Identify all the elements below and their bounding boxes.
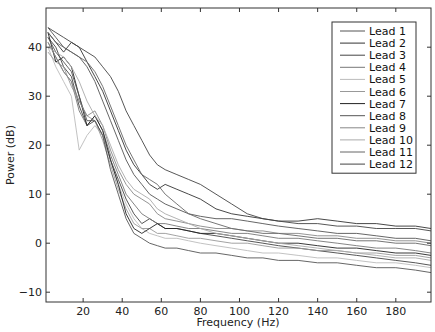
legend-label: Lead 1 [369, 25, 406, 38]
legend-label: Lead 6 [369, 86, 406, 99]
legend-label: Lead 12 [369, 158, 413, 171]
legend-label: Lead 11 [369, 146, 413, 159]
legend-label: Lead 8 [369, 110, 406, 123]
y-tick-label: 30 [28, 90, 42, 103]
legend: Lead 1Lead 2Lead 3Lead 4Lead 5Lead 6Lead… [332, 22, 416, 173]
x-tick-label: 40 [115, 305, 129, 318]
y-tick-label: 10 [28, 188, 42, 201]
y-tick-label: 0 [35, 237, 42, 250]
legend-label: Lead 9 [369, 122, 406, 135]
legend-label: Lead 5 [369, 73, 406, 86]
legend-label: Lead 3 [369, 49, 406, 62]
x-tick-label: 20 [76, 305, 90, 318]
y-tick-label: 40 [28, 41, 42, 54]
x-tick-label: 160 [346, 305, 367, 318]
x-tick-label: 140 [307, 305, 328, 318]
legend-label: Lead 7 [369, 98, 406, 111]
legend-label: Lead 4 [369, 61, 406, 74]
x-axis-label: Frequency (Hz) [197, 316, 280, 329]
x-tick-label: 60 [154, 305, 168, 318]
x-tick-label: 180 [385, 305, 406, 318]
y-tick-label: 20 [28, 139, 42, 152]
y-axis-label: Power (dB) [4, 125, 17, 185]
legend-label: Lead 10 [369, 134, 413, 147]
power-spectrum-chart: 20406080100120140160180 −10010203040 Fre… [0, 0, 435, 332]
legend-label: Lead 2 [369, 37, 406, 50]
y-tick-label: −10 [19, 286, 42, 299]
